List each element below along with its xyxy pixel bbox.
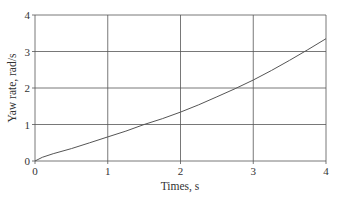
grid bbox=[32, 15, 326, 164]
y-tick-label: 2 bbox=[25, 82, 31, 94]
x-tick-label: 2 bbox=[178, 165, 184, 177]
x-tick-label: 1 bbox=[105, 165, 111, 177]
y-tick-label: 0 bbox=[25, 155, 31, 167]
y-tick-label: 1 bbox=[25, 119, 31, 131]
x-tick-label: 3 bbox=[251, 165, 257, 177]
yaw-rate-chart: 0123401234 Times, s Yaw rate, rad/s bbox=[0, 0, 340, 197]
y-tick-label: 3 bbox=[25, 46, 31, 58]
x-axis-label: Times, s bbox=[161, 180, 200, 193]
y-axis-label: Yaw rate, rad/s bbox=[6, 53, 19, 122]
x-tick-label: 0 bbox=[32, 165, 38, 177]
tick-labels: 0123401234 bbox=[25, 9, 330, 177]
x-tick-label: 4 bbox=[323, 165, 329, 177]
y-tick-label: 4 bbox=[25, 9, 31, 21]
